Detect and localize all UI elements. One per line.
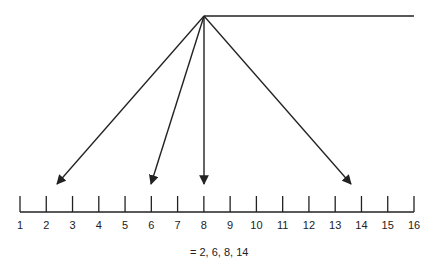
number-label: 4 [96, 219, 102, 231]
number-label: 1 [17, 219, 23, 231]
number-label: 3 [69, 219, 75, 231]
arrow-to-14 [204, 16, 351, 184]
number-label: 15 [382, 219, 394, 231]
arrow-to-6 [151, 16, 204, 184]
targets-label: = 2, 6, 8, 14 [190, 246, 248, 258]
number-line [20, 196, 414, 212]
number-label: 6 [148, 219, 154, 231]
number-label: 10 [250, 219, 262, 231]
number-label: 14 [355, 219, 367, 231]
number-label: 12 [303, 219, 315, 231]
number-label: 7 [175, 219, 181, 231]
source-lines [57, 16, 414, 184]
number-label: 5 [122, 219, 128, 231]
arrow-to-2 [57, 16, 204, 184]
mapping-diagram [0, 0, 437, 268]
tick-marks [20, 196, 414, 212]
number-label: 9 [227, 219, 233, 231]
number-label: 2 [43, 219, 49, 231]
number-label: 8 [201, 219, 207, 231]
number-label: 16 [408, 219, 420, 231]
number-label: 11 [277, 219, 288, 231]
number-label: 13 [329, 219, 341, 231]
